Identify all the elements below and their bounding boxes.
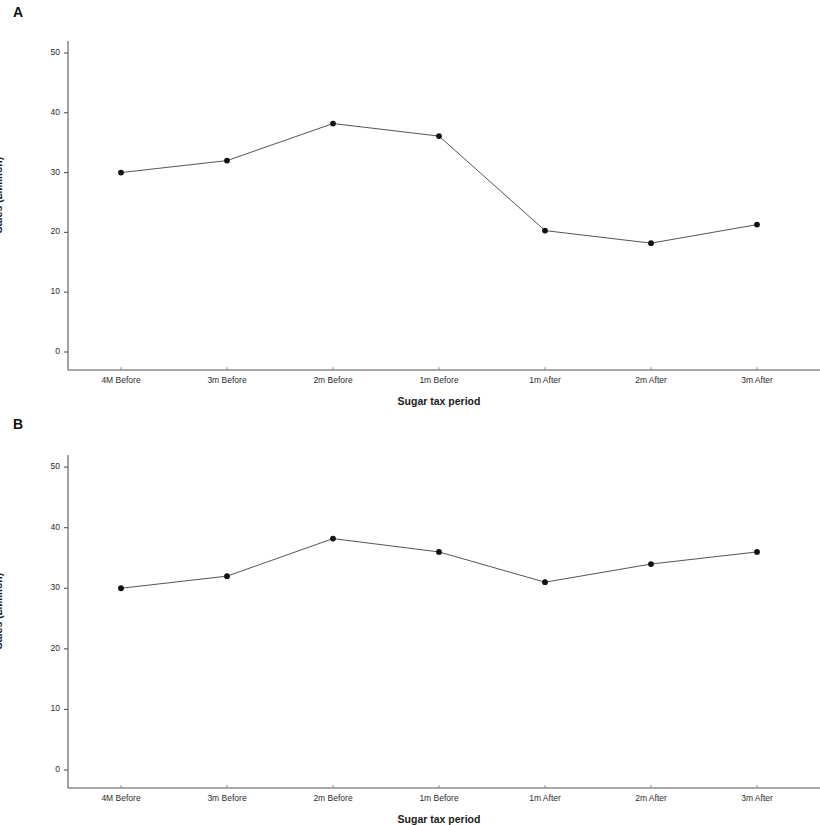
- data-point-marker: [224, 158, 230, 164]
- data-point-marker: [648, 240, 654, 246]
- data-point-marker: [224, 573, 230, 579]
- data-point-marker: [542, 228, 548, 234]
- data-point-marker: [118, 170, 124, 176]
- figure-container: A 010203040504M Before3m Before2m Before…: [0, 0, 820, 825]
- data-point-marker: [330, 536, 336, 542]
- chart-plot-area: [0, 0, 820, 410]
- y-axis-title: Sales (£Million): [0, 551, 4, 671]
- data-point-marker: [542, 579, 548, 585]
- data-point-marker: [330, 121, 336, 127]
- x-axis-title: Sugar tax period: [339, 813, 539, 825]
- data-series-line: [121, 539, 757, 589]
- data-point-marker: [648, 561, 654, 567]
- data-point-marker: [754, 222, 760, 228]
- x-axis-title: Sugar tax period: [339, 395, 539, 407]
- data-point-marker: [118, 585, 124, 591]
- y-axis-title: Sales (£Million): [0, 135, 4, 255]
- chart-plot-area: [0, 412, 820, 825]
- panel-b: B 010203040504M Before3m Before2m Before…: [0, 412, 820, 825]
- panel-a: A 010203040504M Before3m Before2m Before…: [0, 0, 820, 410]
- data-point-marker: [754, 549, 760, 555]
- data-series-line: [121, 124, 757, 244]
- data-point-marker: [436, 133, 442, 139]
- data-point-marker: [436, 549, 442, 555]
